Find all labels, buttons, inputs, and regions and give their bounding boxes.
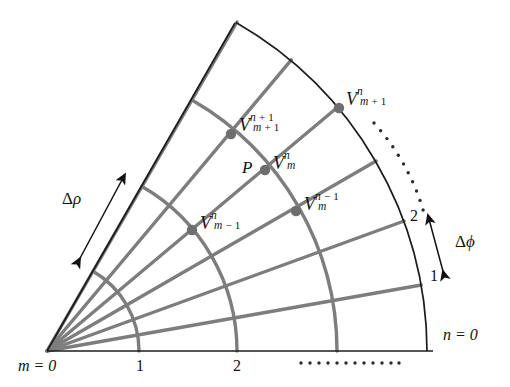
ellipsis-arc-dots	[372, 121, 425, 211]
delta-rho-delta: Δ	[62, 189, 73, 208]
node-label-V-n-plus-1-m-plus-1: Vn + 1m + 1	[239, 112, 280, 134]
radial-tick-1: 1	[136, 358, 144, 374]
node-base: V	[273, 153, 284, 173]
axis-label-m-origin: m = 0	[18, 358, 56, 374]
node-subscript-var: m	[360, 95, 369, 107]
node-subscript-op: + 1	[369, 95, 387, 107]
node-base: V	[200, 213, 211, 233]
node-subscript-var: m	[214, 219, 223, 231]
delta-rho-label: Δρ	[62, 190, 81, 207]
node-marker-V-n-m-minus-1	[187, 225, 197, 235]
delta-phi-var: ϕ	[466, 232, 475, 251]
grid-radials	[47, 22, 421, 351]
node-subscript-var: m	[287, 159, 296, 171]
node-marker-V-n-minus-1-m	[291, 206, 301, 216]
node-subscript-op: + 1	[262, 121, 280, 133]
delta-phi-label: Δϕ	[455, 233, 475, 250]
delta-phi-delta: Δ	[455, 232, 466, 251]
node-subscript-var: m	[253, 121, 262, 133]
node-subscript-var: m	[318, 200, 327, 212]
axis-label-n-origin: n = 0	[443, 327, 478, 343]
node-base: V	[304, 194, 315, 214]
node-label-V-n-m-plus-1: Vnm + 1	[346, 86, 387, 108]
point-label-P: P	[242, 159, 252, 176]
delta-rho-var: ρ	[73, 189, 81, 208]
ellipsis-baseline-dots	[299, 361, 400, 364]
radial-tick-2: 2	[233, 358, 241, 374]
angular-tick-1: 1	[430, 268, 438, 284]
node-marker-V-n-m	[260, 165, 270, 175]
node-base: V	[346, 89, 357, 109]
node-base: V	[239, 115, 250, 135]
node-marker-V-n-plus-1-m-plus-1	[226, 129, 236, 139]
delta-rho-arrow	[78, 178, 123, 262]
node-subscript-op: − 1	[223, 219, 241, 231]
angular-tick-2: 2	[410, 208, 418, 224]
node-label-V-n-m-minus-1: Vnm − 1	[200, 210, 241, 232]
node-label-V-n-minus-1-m: Vn − 1m	[304, 191, 339, 213]
node-marker-V-n-m-plus-1	[334, 103, 344, 113]
polar-grid-figure: m = 0 n = 0 1 2 1 2 Δρ Δϕ P Vnm + 1 Vn +…	[0, 0, 510, 387]
node-label-V-n-m: Vnm	[273, 150, 296, 172]
